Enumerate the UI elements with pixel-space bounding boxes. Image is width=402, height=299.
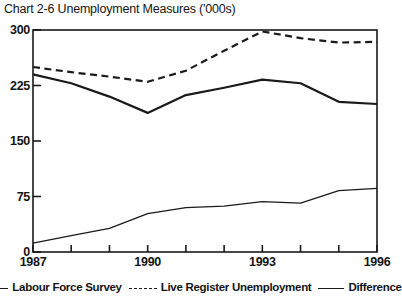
legend-item-2: Difference (318, 282, 401, 294)
axis-layer (33, 30, 377, 252)
plot-svg (0, 22, 384, 267)
chart-title: Chart 2-6 Unemployment Measures ('000s) (4, 2, 236, 16)
series-layer (33, 31, 377, 243)
legend-swatch-solid-icon (318, 288, 344, 289)
legend-label-1: Live Register Unemployment (161, 282, 312, 294)
x-axis-label-1987: 1987 (20, 256, 47, 269)
series-line-2 (33, 188, 377, 243)
x-axis-tick-labels: 1987199019931996 (0, 256, 384, 272)
legend-swatch-solid-icon (0, 288, 8, 289)
series-line-1 (33, 31, 377, 81)
series-line-0 (33, 74, 377, 112)
plot-area (0, 22, 384, 267)
plot-border (33, 30, 377, 252)
legend-item-1: Live Register Unemployment (129, 282, 312, 294)
legend-swatch-dashed-icon (129, 288, 157, 289)
x-axis-label-1993: 1993 (249, 256, 276, 269)
legend-label-0: Labour Force Survey (12, 282, 121, 294)
legend-item-0: Labour Force Survey (0, 282, 122, 294)
x-axis-label-1996: 1996 (364, 256, 391, 269)
legend-label-2: Difference (348, 282, 401, 294)
chart-legend: Labour Force SurveyLive Register Unemplo… (0, 279, 384, 297)
x-axis-label-1990: 1990 (134, 256, 161, 269)
